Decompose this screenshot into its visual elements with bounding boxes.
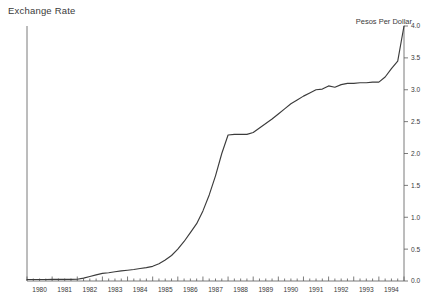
data-series-group — [27, 26, 404, 280]
x-tick-label: 1980 — [32, 286, 47, 293]
x-tick-label: 1986 — [183, 286, 198, 293]
y-tick-label: 1.5 — [411, 182, 420, 189]
y-tick-label: 2.0 — [411, 150, 420, 157]
x-tick-label: 1994 — [384, 286, 399, 293]
y-tick-label: 0.5 — [411, 246, 420, 253]
x-axis-ticks — [27, 277, 404, 282]
y-tick-label: 4.0 — [411, 22, 420, 29]
x-axis-tick-labels: 1980198119821983198419851986198719881989… — [32, 286, 399, 293]
plot-area: 1980198119821983198419851986198719881989… — [0, 0, 432, 301]
x-tick-label: 1985 — [158, 286, 173, 293]
x-tick-label: 1982 — [82, 286, 97, 293]
x-tick-label: 1992 — [334, 286, 349, 293]
chart-container: Exchange Rate Pesos Per Dollar 198019811… — [0, 0, 432, 301]
y-tick-label: 3.0 — [411, 86, 420, 93]
x-tick-label: 1983 — [108, 286, 123, 293]
y-axis-ticks — [404, 26, 408, 281]
y-tick-label: 3.5 — [411, 54, 420, 61]
y-tick-label: 2.5 — [411, 118, 420, 125]
x-tick-label: 1984 — [133, 286, 148, 293]
axes-group — [27, 26, 404, 281]
y-axis-tick-labels: 0.00.51.01.52.02.53.03.54.0 — [411, 22, 420, 284]
x-tick-label: 1988 — [233, 286, 248, 293]
line-chart-svg: 1980198119821983198419851986198719881989… — [0, 0, 432, 301]
y-tick-label: 1.0 — [411, 214, 420, 221]
x-tick-label: 1993 — [359, 286, 374, 293]
x-tick-label: 1989 — [258, 286, 273, 293]
data-line — [27, 26, 404, 280]
x-tick-label: 1991 — [309, 286, 324, 293]
y-tick-label: 0.0 — [411, 277, 420, 284]
x-tick-label: 1981 — [57, 286, 72, 293]
x-tick-label: 1990 — [284, 286, 299, 293]
x-tick-label: 1987 — [208, 286, 223, 293]
